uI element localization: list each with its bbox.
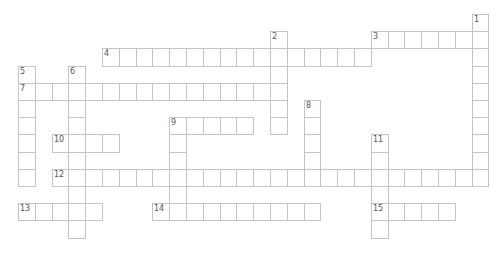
crossword-cell[interactable] (186, 117, 204, 135)
crossword-cell[interactable] (270, 66, 288, 84)
crossword-cell[interactable] (169, 134, 187, 153)
crossword-cell[interactable]: 3 (371, 31, 389, 49)
crossword-cell[interactable] (371, 169, 389, 187)
crossword-cell[interactable] (253, 48, 271, 67)
crossword-cell[interactable] (304, 203, 321, 221)
crossword-cell[interactable] (304, 134, 321, 153)
crossword-cell[interactable] (68, 169, 86, 187)
crossword-cell[interactable] (354, 48, 372, 67)
crossword-cell[interactable]: 4 (102, 48, 120, 67)
crossword-cell[interactable] (152, 83, 170, 101)
crossword-cell[interactable]: 11 (371, 134, 389, 153)
crossword-cell[interactable] (472, 117, 489, 135)
crossword-cell[interactable] (472, 83, 489, 101)
crossword-cell[interactable] (203, 117, 221, 135)
crossword-cell[interactable] (404, 169, 422, 187)
crossword-cell[interactable] (220, 83, 237, 101)
crossword-cell[interactable] (85, 83, 103, 101)
crossword-cell[interactable]: 6 (68, 66, 86, 84)
crossword-cell[interactable] (68, 83, 86, 101)
crossword-cell[interactable] (203, 83, 221, 101)
crossword-cell[interactable] (287, 169, 305, 187)
crossword-cell[interactable] (186, 83, 204, 101)
crossword-cell[interactable] (404, 31, 422, 49)
crossword-cell[interactable] (102, 169, 120, 187)
crossword-cell[interactable]: 9 (169, 117, 187, 135)
crossword-cell[interactable] (186, 169, 204, 187)
crossword-cell[interactable] (304, 169, 321, 187)
crossword-cell[interactable] (270, 203, 288, 221)
crossword-cell[interactable] (472, 31, 489, 49)
crossword-cell[interactable] (337, 48, 355, 67)
crossword-cell[interactable] (102, 83, 120, 101)
crossword-cell[interactable]: 8 (304, 100, 321, 118)
crossword-cell[interactable] (253, 169, 271, 187)
crossword-cell[interactable] (320, 48, 338, 67)
crossword-cell[interactable] (220, 203, 237, 221)
crossword-cell[interactable] (304, 117, 321, 135)
crossword-cell[interactable] (421, 31, 439, 49)
crossword-cell[interactable] (18, 117, 36, 135)
crossword-cell[interactable] (236, 48, 254, 67)
crossword-cell[interactable] (169, 48, 187, 67)
crossword-cell[interactable] (52, 83, 69, 101)
crossword-cell[interactable] (354, 169, 372, 187)
crossword-cell[interactable]: 7 (18, 83, 36, 101)
crossword-cell[interactable]: 12 (52, 169, 69, 187)
crossword-cell[interactable] (169, 186, 187, 204)
crossword-cell[interactable] (220, 117, 237, 135)
crossword-cell[interactable] (404, 203, 422, 221)
crossword-cell[interactable] (152, 169, 170, 187)
crossword-cell[interactable] (455, 169, 473, 187)
crossword-cell[interactable]: 14 (152, 203, 170, 221)
crossword-cell[interactable]: 15 (371, 203, 389, 221)
crossword-cell[interactable] (472, 169, 489, 187)
crossword-cell[interactable] (169, 83, 187, 101)
crossword-cell[interactable] (136, 83, 153, 101)
crossword-cell[interactable] (236, 203, 254, 221)
crossword-cell[interactable] (203, 169, 221, 187)
crossword-cell[interactable]: 5 (18, 66, 36, 84)
crossword-cell[interactable] (371, 152, 389, 170)
crossword-cell[interactable] (438, 169, 456, 187)
crossword-cell[interactable] (287, 203, 305, 221)
crossword-cell[interactable]: 10 (52, 134, 69, 153)
crossword-cell[interactable] (68, 220, 86, 239)
crossword-cell[interactable] (68, 100, 86, 118)
crossword-cell[interactable] (472, 134, 489, 153)
crossword-cell[interactable] (18, 152, 36, 170)
crossword-cell[interactable] (304, 152, 321, 170)
crossword-cell[interactable] (438, 203, 456, 221)
crossword-cell[interactable] (102, 134, 120, 153)
crossword-cell[interactable] (35, 83, 53, 101)
crossword-cell[interactable] (253, 203, 271, 221)
crossword-cell[interactable] (68, 134, 86, 153)
crossword-cell[interactable] (371, 186, 389, 204)
crossword-cell[interactable] (220, 48, 237, 67)
crossword-cell[interactable]: 2 (270, 31, 288, 49)
crossword-cell[interactable] (169, 152, 187, 170)
crossword-cell[interactable] (270, 100, 288, 118)
crossword-cell[interactable] (388, 169, 405, 187)
crossword-cell[interactable] (236, 83, 254, 101)
crossword-cell[interactable] (203, 203, 221, 221)
crossword-cell[interactable] (236, 117, 254, 135)
crossword-cell[interactable] (169, 169, 187, 187)
crossword-cell[interactable] (18, 169, 36, 187)
crossword-cell[interactable] (52, 203, 69, 221)
crossword-cell[interactable] (35, 203, 53, 221)
crossword-cell[interactable] (388, 31, 405, 49)
crossword-cell[interactable] (472, 152, 489, 170)
crossword-cell[interactable] (119, 169, 137, 187)
crossword-cell[interactable] (136, 169, 153, 187)
crossword-cell[interactable] (68, 152, 86, 170)
crossword-cell[interactable] (472, 48, 489, 67)
crossword-cell[interactable] (270, 48, 288, 67)
crossword-cell[interactable] (270, 83, 288, 101)
crossword-cell[interactable] (236, 169, 254, 187)
crossword-cell[interactable] (421, 203, 439, 221)
crossword-cell[interactable] (169, 203, 187, 221)
crossword-cell[interactable] (287, 48, 305, 67)
crossword-cell[interactable] (320, 169, 338, 187)
crossword-cell[interactable] (68, 186, 86, 204)
